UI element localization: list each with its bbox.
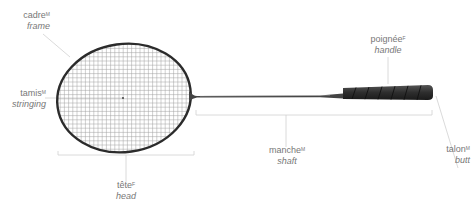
label-handle: poignéeF handle bbox=[360, 34, 416, 56]
stringing-grid bbox=[50, 30, 200, 160]
label-head: têteF head bbox=[106, 180, 146, 202]
label-stringing: tamisM stringing bbox=[0, 88, 46, 110]
label-butt: talonM butt bbox=[430, 144, 470, 166]
label-frame: cadreM frame bbox=[10, 10, 50, 32]
leader-lines bbox=[43, 34, 458, 182]
badminton-racket-illustration bbox=[0, 0, 474, 203]
label-shaft: mancheM shaft bbox=[262, 145, 312, 167]
